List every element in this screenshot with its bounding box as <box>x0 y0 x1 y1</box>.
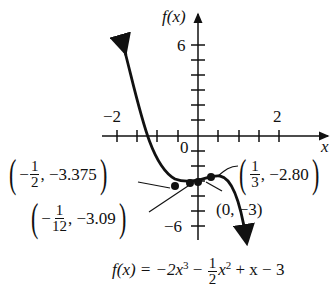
function-equation: f(x) = −2x3 − 12x2 + x − 3 <box>112 256 284 287</box>
x-tick-label-neg2: −2 <box>103 108 121 125</box>
point-markers <box>171 173 215 190</box>
point-label-origin-intercept: (0, −3) <box>216 201 262 218</box>
graph-canvas <box>0 0 335 290</box>
point-label-neg-twelfth: ( − 112 , −3.09 ) <box>28 198 129 238</box>
y-tick-label-neg6: −6 <box>164 218 182 235</box>
x-axis-label: x <box>321 138 329 155</box>
point-label-third: ( 13 , −2.80 ) <box>236 154 322 194</box>
y-axis-label: f(x) <box>162 8 186 25</box>
origin-label: 0 <box>180 139 189 156</box>
point-label-neg-half: ( − 12 , −3.375 ) <box>6 154 110 194</box>
x-tick-label-2: 2 <box>273 108 282 125</box>
y-tick-label-6: 6 <box>177 37 186 54</box>
